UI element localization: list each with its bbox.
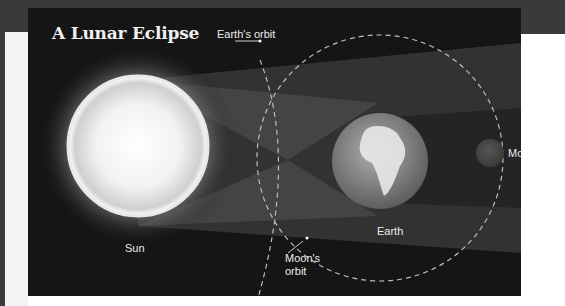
diagram-panel: A Lunar Eclipse Earth's orbit Sun Moon E… — [28, 8, 521, 296]
label-moons-orbit-line1: Moon's — [285, 252, 320, 265]
label-moons-orbit-line2: orbit — [285, 265, 320, 278]
sun — [68, 76, 208, 216]
label-moons-orbit: Moon's orbit — [285, 252, 320, 278]
label-sun: Sun — [125, 242, 145, 255]
diagram-title: A Lunar Eclipse — [52, 23, 199, 43]
label-earth: Earth — [377, 225, 403, 238]
moons-orbit-dot — [306, 237, 309, 240]
label-moon: Moon — [508, 147, 521, 160]
eclipse-diagram — [28, 8, 521, 296]
label-earths-orbit: Earth's orbit — [217, 28, 275, 41]
frame-left-margin — [5, 32, 28, 306]
moon — [476, 139, 504, 167]
